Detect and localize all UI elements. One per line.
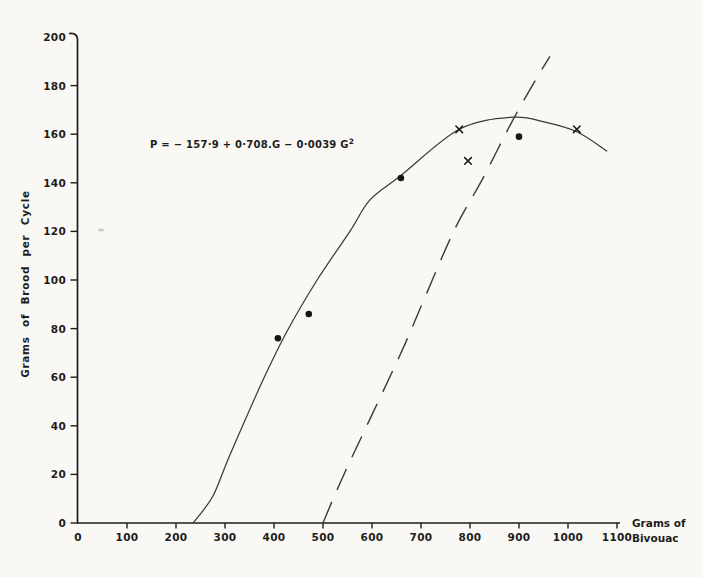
dashed-projection-line (323, 56, 550, 523)
x-tick-label: 900 (508, 531, 531, 543)
y-tick-label: 200 (43, 31, 66, 43)
y-axis-title: Grams of Brood per Cycle (19, 190, 31, 378)
data-point-dot (398, 175, 405, 182)
y-tick-label: 100 (43, 274, 66, 286)
y-axis-line (70, 33, 78, 523)
x-tick-label: 800 (459, 531, 482, 543)
y-tick-label: 0 (58, 517, 66, 529)
x-tick-label: 0 (74, 531, 82, 543)
y-tick-label: 180 (43, 80, 66, 92)
y-tick-label: 20 (51, 468, 66, 480)
x-tick-label: 500 (312, 531, 335, 543)
data-point-dot (516, 133, 523, 140)
y-tick-label: 120 (43, 225, 66, 237)
data-point-dot (305, 311, 312, 318)
y-tick-label: 140 (43, 177, 66, 189)
x-axis-title-line2: Bivouac (632, 531, 686, 546)
y-tick-label: 160 (43, 128, 66, 140)
equation-superscript: 2 (349, 137, 354, 146)
y-tick-label: 40 (51, 420, 66, 432)
x-tick-label: 600 (361, 531, 384, 543)
chart-figure: 0204060801001201401601802000100200300400… (0, 0, 703, 577)
plot-canvas: 0204060801001201401601802000100200300400… (0, 0, 703, 577)
y-tick-label: 60 (51, 371, 66, 383)
x-tick-label: 700 (410, 531, 433, 543)
regression-equation: P = − 157·9 + 0·708.G − 0·0039 G2 (150, 139, 354, 150)
data-point-dot (275, 335, 282, 342)
equation-text: P = − 157·9 + 0·708.G − 0·0039 G (150, 139, 349, 150)
x-tick-label: 200 (165, 531, 188, 543)
x-axis-title-line1: Grams of (632, 516, 686, 531)
x-tick-label: 100 (116, 531, 139, 543)
x-tick-label: 300 (214, 531, 237, 543)
y-tick-label: 80 (51, 323, 66, 335)
x-tick-label: 400 (263, 531, 286, 543)
x-tick-label: 1100 (602, 531, 632, 543)
x-tick-label: 1000 (553, 531, 583, 543)
scan-artifact-speck (98, 229, 104, 232)
x-axis-title: Grams of Bivouac (632, 516, 686, 545)
